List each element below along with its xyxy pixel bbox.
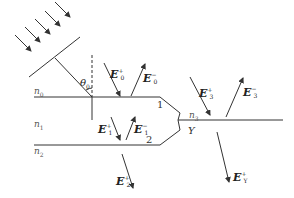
diagram-lines bbox=[0, 0, 294, 198]
branch-2-line bbox=[160, 130, 180, 145]
branch-label-2: 2 bbox=[146, 135, 152, 145]
arrow-E3-minus bbox=[226, 78, 243, 117]
field-label-E3-plus: E+3 bbox=[199, 88, 216, 99]
branch-label-Y: Y bbox=[188, 126, 195, 136]
branch-label-1: 1 bbox=[157, 100, 163, 110]
field-label-EY-plus: E+Y bbox=[233, 172, 250, 183]
field-label-E3-minus: E−3 bbox=[243, 87, 260, 98]
angle-label-theta0: θ0 bbox=[80, 78, 90, 90]
arrow-EY-plus bbox=[217, 132, 229, 182]
medium-label-n2: n2 bbox=[34, 147, 44, 158]
medium-label-n0: n0 bbox=[34, 87, 44, 98]
field-label-E0-plus: E+0 bbox=[110, 69, 127, 80]
incident-ray bbox=[45, 11, 60, 26]
incident-ray bbox=[35, 19, 50, 34]
incident-ray bbox=[15, 35, 31, 51]
medium-label-n1: n1 bbox=[34, 120, 44, 131]
field-label-E2-plus: E+2 bbox=[116, 176, 133, 187]
field-label-E1-minus: E−1 bbox=[134, 124, 151, 135]
incident-ray bbox=[25, 27, 40, 42]
field-label-E1-plus: E+1 bbox=[98, 124, 115, 135]
field-label-E0-minus: E−0 bbox=[143, 73, 160, 84]
medium-label-n3: n3 bbox=[189, 111, 199, 122]
incident-ray bbox=[55, 2, 70, 17]
diagram-canvas: n0 n1 n2 n3 θ0 1 2 Y E+0 E−0 E+1 E−1 E+2… bbox=[0, 0, 294, 198]
wavefront-line bbox=[29, 37, 80, 77]
